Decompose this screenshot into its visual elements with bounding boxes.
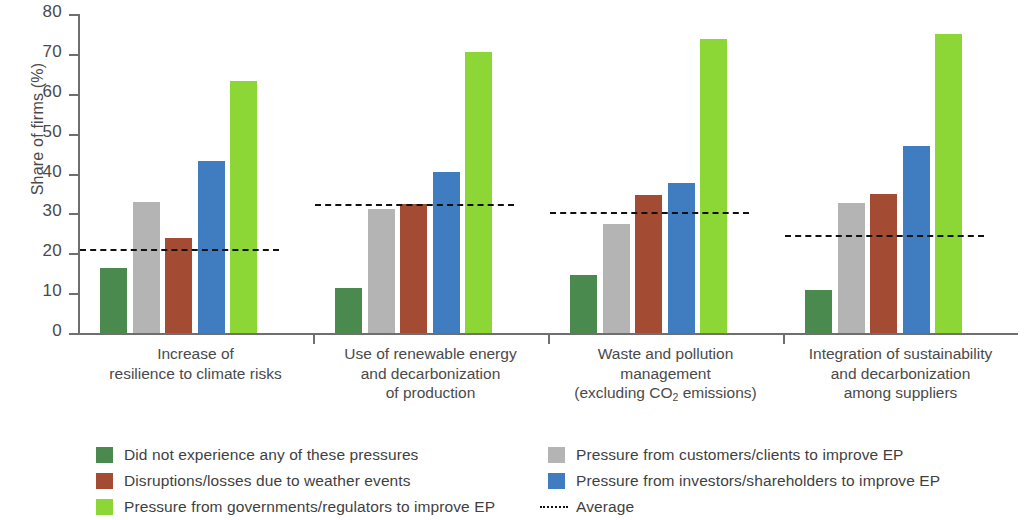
bar — [465, 52, 492, 333]
bar — [433, 172, 460, 333]
legend-dashed-line-icon — [548, 499, 565, 515]
bar — [805, 290, 832, 333]
legend-item[interactable]: Average — [548, 495, 1018, 519]
y-axis-tick-label: 30 — [16, 201, 62, 221]
y-axis-tick: 0 — [8, 333, 78, 334]
bar — [838, 203, 865, 333]
legend-column-left: Did not experience any of these pressure… — [96, 443, 546, 520]
plot-area: 80706050403020100 — [78, 14, 1018, 333]
x-axis-category-label-line: and decarbonization — [313, 364, 548, 384]
y-axis-tick-label: 0 — [16, 321, 62, 341]
bar — [668, 183, 695, 333]
legend-item-label: Pressure from governments/regulators to … — [124, 498, 495, 516]
x-axis-category-label-line: (excluding CO2 emissions) — [548, 383, 783, 405]
bar — [700, 39, 727, 333]
x-axis-category-label-line: management — [548, 364, 783, 384]
y-axis-tick-label: 70 — [16, 42, 62, 62]
y-axis-tick-mark — [69, 213, 78, 215]
y-axis-tick-label: 10 — [16, 281, 62, 301]
y-axis-tick: 50 — [8, 134, 78, 135]
legend-item[interactable]: Pressure from governments/regulators to … — [96, 495, 546, 519]
legend-item[interactable]: Pressure from investors/shareholders to … — [548, 469, 1018, 493]
x-axis-category-label-line: among suppliers — [783, 383, 1018, 403]
legend-color-swatch — [96, 473, 113, 489]
x-axis-group-separator — [313, 333, 315, 344]
bar — [400, 204, 427, 333]
y-axis-tick-mark — [69, 333, 78, 335]
legend-color-swatch — [96, 447, 113, 463]
y-axis-tick-mark — [69, 253, 78, 255]
legend-color-swatch — [548, 447, 565, 463]
bar — [133, 202, 160, 333]
y-axis-tick-mark — [69, 94, 78, 96]
y-axis-tick-label: 50 — [16, 122, 62, 142]
y-axis-tick-label: 60 — [16, 82, 62, 102]
bar — [165, 238, 192, 333]
legend-item-label: Disruptions/losses due to weather events — [124, 472, 411, 490]
legend-item[interactable]: Did not experience any of these pressure… — [96, 443, 546, 467]
bar — [903, 146, 930, 333]
x-axis-category-label: Increase ofresilience to climate risks — [78, 344, 313, 383]
x-axis-category-label: Integration of sustainabilityand decarbo… — [783, 344, 1018, 403]
y-axis-tick-mark — [69, 293, 78, 295]
y-axis-tick: 30 — [8, 213, 78, 214]
bar — [100, 268, 127, 333]
x-axis-category-label-line: Use of renewable energy — [313, 344, 548, 364]
y-axis-tick: 20 — [8, 253, 78, 254]
bar — [870, 194, 897, 333]
y-axis-tick: 40 — [8, 174, 78, 175]
bar — [570, 275, 597, 333]
bar — [368, 209, 395, 333]
legend-item-label: Pressure from customers/clients to impro… — [576, 446, 904, 464]
legend-item[interactable]: Disruptions/losses due to weather events — [96, 469, 546, 493]
y-axis-tick: 70 — [8, 54, 78, 55]
legend-color-swatch — [96, 499, 113, 515]
x-axis-category-label-line: Integration of sustainability — [783, 344, 1018, 364]
y-axis-tick: 60 — [8, 94, 78, 95]
legend-item-label: Average — [576, 498, 634, 516]
average-line — [315, 204, 514, 206]
legend-item-label: Pressure from investors/shareholders to … — [576, 472, 940, 490]
bar — [935, 34, 962, 333]
x-axis-category-label-line: resilience to climate risks — [78, 364, 313, 384]
y-axis-tick-mark — [69, 134, 78, 136]
x-axis-category-labels: Increase ofresilience to climate risksUs… — [78, 344, 1018, 424]
bar — [603, 224, 630, 333]
average-line — [80, 249, 279, 251]
x-axis-group-separator — [548, 333, 550, 344]
x-axis-group-separator — [783, 333, 785, 344]
legend-item-label: Did not experience any of these pressure… — [124, 446, 418, 464]
legend-item[interactable]: Pressure from customers/clients to impro… — [548, 443, 1018, 467]
y-axis-tick-label: 80 — [16, 2, 62, 22]
bar — [335, 288, 362, 333]
legend-color-swatch — [548, 473, 565, 489]
x-axis-category-label: Waste and pollutionmanagement(excluding … — [548, 344, 783, 405]
bar-chart: Share of firms (%) 80706050403020100 Inc… — [0, 0, 1025, 520]
y-axis-tick-mark — [69, 14, 78, 16]
bar — [198, 161, 225, 333]
y-axis-line — [78, 14, 80, 333]
y-axis-tick: 10 — [8, 293, 78, 294]
y-axis-tick: 80 — [8, 14, 78, 15]
x-axis-category-label-line: of production — [313, 383, 548, 403]
x-axis-category-label: Use of renewable energyand decarbonizati… — [313, 344, 548, 403]
y-axis-tick-label: 20 — [16, 241, 62, 261]
average-line — [550, 212, 749, 214]
y-axis-tick-mark — [69, 174, 78, 176]
x-axis-category-label-line: Increase of — [78, 344, 313, 364]
bar — [230, 81, 257, 333]
y-axis-tick-mark — [69, 54, 78, 56]
y-axis-tick-label: 40 — [16, 162, 62, 182]
bar — [635, 195, 662, 333]
x-axis-category-label-line: Waste and pollution — [548, 344, 783, 364]
average-line — [785, 235, 984, 237]
chart-legend: Did not experience any of these pressure… — [96, 443, 1016, 515]
legend-column-right: Pressure from customers/clients to impro… — [548, 443, 1018, 520]
x-axis-category-label-line: and decarbonization — [783, 364, 1018, 384]
